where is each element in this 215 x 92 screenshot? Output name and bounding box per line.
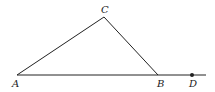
segment-cb: [104, 17, 158, 75]
segment-ac: [17, 17, 104, 75]
label-c: C: [101, 4, 109, 15]
point-d-dot: [190, 73, 194, 77]
label-b: B: [156, 78, 164, 89]
label-a: A: [11, 78, 19, 89]
label-d: D: [188, 78, 197, 89]
triangle-diagram: C A B D: [0, 0, 215, 92]
